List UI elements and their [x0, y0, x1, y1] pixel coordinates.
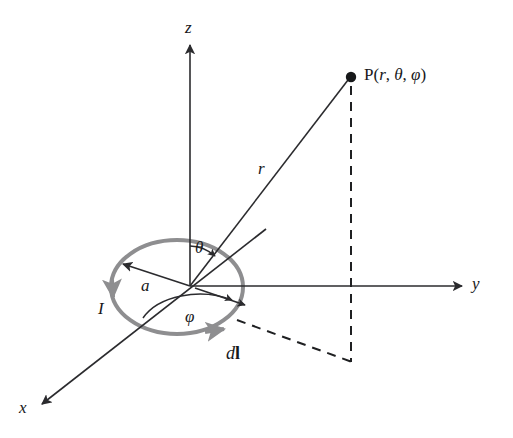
dl-element-label: dl	[226, 344, 240, 362]
point-p-suffix: )	[421, 65, 427, 84]
dl-element-d: d	[226, 343, 235, 363]
phi-angle-label: φ	[185, 308, 194, 325]
point-p-sep2: ,	[403, 65, 412, 84]
point-p-label: P(r, θ, φ)	[364, 66, 426, 83]
point-p-sep1: ,	[386, 65, 395, 84]
point-p-prefix: P(	[364, 65, 379, 84]
radius-r-label: r	[258, 160, 265, 177]
dashed-diagonal-projection	[237, 320, 352, 362]
y-axis-label: y	[472, 275, 480, 292]
point-p-r: r	[379, 65, 386, 84]
dl-element-l: l	[235, 343, 240, 363]
physics-diagram-current-loop: z y x P(r, θ, φ) r a I θ φ dl	[0, 0, 513, 438]
diagram-canvas	[0, 0, 513, 438]
point-p-dot	[346, 72, 356, 82]
x-axis-label: x	[19, 399, 27, 416]
point-p-theta: θ	[394, 65, 402, 84]
z-axis-label: z	[185, 19, 192, 36]
theta-angle-label: θ	[195, 239, 203, 256]
current-loop-ellipse	[111, 240, 243, 334]
loop-radius-a-arrow	[123, 264, 190, 286]
x-axis-line	[42, 229, 266, 404]
current-i-label: I	[98, 300, 104, 317]
current-direction-arrow	[112, 280, 113, 297]
loop-radius-a-label: a	[141, 277, 150, 294]
point-p-phi: φ	[411, 65, 420, 84]
